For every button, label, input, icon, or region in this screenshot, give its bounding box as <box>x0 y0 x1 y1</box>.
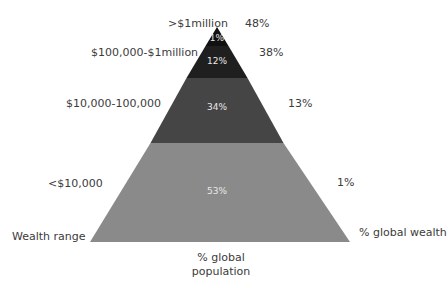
tier-2-wealth-pct: 38% <box>259 46 283 59</box>
global-wealth-axis-label: % global wealth <box>359 226 447 239</box>
tier-1-population-pct: 1% <box>210 33 224 43</box>
global-population-label-line1: % global <box>192 251 251 265</box>
tier-3-population-pct: 34% <box>207 102 227 112</box>
tier-2-population-pct: 12% <box>207 56 227 66</box>
tier-4-wealth-range: <$10,000 <box>48 177 103 190</box>
global-population-label-line2: population <box>192 265 251 279</box>
tier-3-wealth-pct: 13% <box>288 97 312 110</box>
global-population-axis-label: % global population <box>192 251 251 279</box>
tier-3-wealth-range: $10,000-100,000 <box>66 97 161 110</box>
tier-4-wealth-pct: 1% <box>337 176 354 189</box>
tier-1-wealth-pct: 48% <box>245 17 269 30</box>
pyramid-graphic <box>0 0 448 288</box>
tier-2-wealth-range: $100,000-$1million <box>91 46 198 59</box>
wealth-range-axis-label: Wealth range <box>12 230 86 243</box>
tier-1-wealth-range: >$1million <box>168 17 228 30</box>
tier-4-population-pct: 53% <box>207 186 227 196</box>
